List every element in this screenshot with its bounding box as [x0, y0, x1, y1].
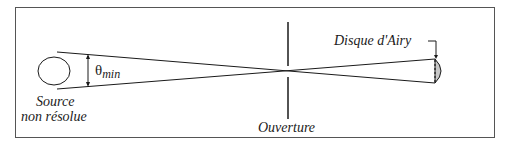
airy-disk-label: Disque d'Airy — [334, 33, 411, 48]
aperture-label: Ouverture — [258, 120, 315, 135]
theta-subscript: min — [102, 67, 120, 81]
source-label-line2: non résolue — [21, 109, 87, 124]
airy-leader-line — [428, 41, 436, 57]
airy-disk — [435, 59, 441, 83]
frame-border — [16, 8, 495, 138]
source-label-line1: Source — [36, 94, 74, 109]
unresolved-source-circle — [38, 57, 70, 85]
theta-min-label: θmin — [95, 63, 120, 79]
optics-diagram — [0, 0, 508, 147]
